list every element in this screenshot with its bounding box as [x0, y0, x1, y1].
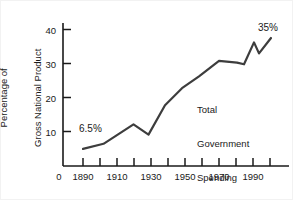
annotation-end-value: 35% [258, 22, 278, 34]
y-tick-label-30: 30 [34, 59, 56, 70]
annotation-series-label-line1: Total [197, 104, 249, 115]
x-tick-label-1930: 1930 [134, 171, 168, 182]
y-tick-label-10: 10 [34, 127, 56, 138]
annotation-series-label-line2: Government [197, 138, 249, 149]
chart-figure: Percentage of Gross National Product 40 … [0, 0, 293, 200]
x-tick-label-1890: 1890 [66, 171, 100, 182]
y-tick-label-40: 40 [34, 25, 56, 36]
y-axis-label-line1: Percentage of [0, 38, 10, 158]
annotation-series-label: Total Government Spending [197, 82, 249, 200]
y-tick-label-20: 20 [34, 93, 56, 104]
x-tick-label-1910: 1910 [100, 171, 134, 182]
annotation-series-label-line3: Spending [197, 172, 249, 183]
annotation-start-value: 6.5% [79, 123, 102, 135]
